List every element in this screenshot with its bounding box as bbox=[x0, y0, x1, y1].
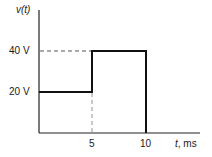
y-tick-20v: 20 V bbox=[9, 87, 30, 97]
y-tick-40v: 40 V bbox=[9, 46, 30, 56]
x-tick-10: 10 bbox=[140, 139, 151, 149]
x-tick-5: 5 bbox=[89, 139, 95, 149]
waveform-line bbox=[39, 51, 146, 133]
y-axis-label: v(t) bbox=[16, 5, 30, 15]
x-axis-label: t, ms bbox=[175, 139, 197, 149]
voltage-waveform-chart: v(t) 40 V 20 V 5 10 t, ms bbox=[0, 0, 212, 157]
chart-plot-area bbox=[0, 0, 212, 157]
